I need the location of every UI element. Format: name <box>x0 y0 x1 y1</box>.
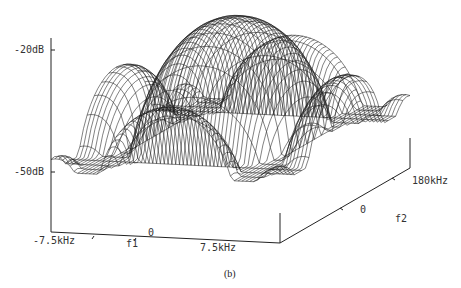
figure-caption: (b) <box>224 268 236 279</box>
x-axis-label: f1 <box>126 239 138 249</box>
z-tick-label-bottom: -50dB <box>14 167 44 177</box>
z-tick-label-top: -20dB <box>14 45 44 55</box>
x-tick-label-right: 7.5kHz <box>200 243 236 253</box>
x-axis-line <box>51 232 280 243</box>
y-tick-label-mid: 0 <box>360 205 366 215</box>
y-axis-line <box>280 168 410 243</box>
x-tick-mid <box>92 236 94 239</box>
surface-mesh <box>51 15 410 181</box>
y-tick-label-right: 180kHz <box>412 176 448 186</box>
y-tick-mid <box>340 208 343 210</box>
y-axis-label: f2 <box>395 214 407 224</box>
y-tick-right <box>392 178 395 180</box>
x-tick-label-mid: 0 <box>148 228 154 238</box>
x-tick-label-left: -7.5kHz <box>33 236 75 246</box>
wireframe-surface <box>51 15 410 181</box>
